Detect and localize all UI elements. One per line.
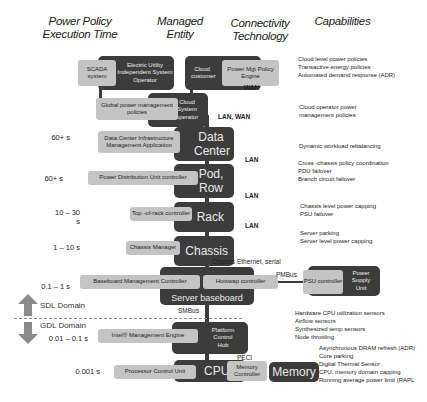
pod-row-label: Pod, Row bbox=[198, 167, 224, 195]
cap-item: Automated demand response (ADR) bbox=[298, 71, 395, 79]
sdl-domain-label: SDL Domain bbox=[40, 301, 85, 310]
cap-chassis: Server parking Server level power cappin… bbox=[300, 229, 372, 245]
pch-label: Platform Control Hub bbox=[208, 327, 238, 350]
time-cpu: 0.001 s bbox=[68, 367, 100, 376]
cap-item: Cloud operator power bbox=[299, 103, 357, 111]
header-entity-line1: Managed bbox=[155, 15, 205, 28]
cap-operator: Cloud operator power management policies bbox=[299, 103, 357, 119]
hotswap-controller: Hotswap controller bbox=[203, 275, 278, 289]
cap-item: PDU failover bbox=[298, 167, 389, 175]
gdl-domain-label: GDL Domain bbox=[40, 321, 86, 330]
cap-item: Server parking bbox=[300, 229, 372, 237]
cap-item: PSU failover bbox=[300, 210, 376, 218]
processor-control-unit: Processor Control Unit bbox=[114, 365, 196, 379]
header-entity: Managed Entity bbox=[155, 15, 205, 41]
psu-controller: PSU controller bbox=[303, 270, 343, 294]
header-conn-line1: Connectivity bbox=[225, 17, 295, 30]
header-connectivity: Connectivity Technology bbox=[225, 17, 295, 43]
cap-cloud: Cloud level power policies Transactive e… bbox=[298, 55, 395, 79]
global-power-policies: Global power management policies bbox=[96, 98, 178, 120]
conn-smbus: SMBus bbox=[178, 307, 199, 314]
domain-divider bbox=[14, 318, 242, 319]
cloud-customer-label: Cloud customer bbox=[191, 66, 213, 81]
time-pod: 60+ s bbox=[33, 174, 63, 183]
cap-item: Running average power limit (RAPL bbox=[319, 376, 415, 384]
scada-system-front: SCADA system bbox=[78, 60, 116, 86]
datacenter-entity: Data Center bbox=[174, 127, 234, 161]
conn-lan-1: LAN bbox=[245, 156, 258, 163]
cap-item: Server level power capping bbox=[300, 237, 372, 245]
cap-item: Branch circuit failover bbox=[298, 175, 389, 183]
cap-item: Core parking bbox=[319, 352, 415, 360]
cap-item: Airflow sensors bbox=[295, 317, 385, 325]
psu-label: Power Supply Unit bbox=[348, 270, 374, 293]
cap-item: Cloud level power policies bbox=[298, 55, 395, 63]
conn-pmbus: PMBus bbox=[276, 271, 297, 278]
header-capabilities: Capabilities bbox=[305, 15, 380, 28]
bmc-controller: Baseboard Management Controller bbox=[80, 275, 200, 289]
datacenter-label: Data Center bbox=[194, 130, 228, 158]
cap-item: Node throttling bbox=[295, 333, 385, 341]
cap-item: Digital Thermal Sensor bbox=[319, 360, 415, 368]
conn-lan-wan: LAN, WAN bbox=[218, 113, 250, 120]
dcim-application: Data Center Infrastructure Management Ap… bbox=[98, 131, 180, 153]
header-time-line2: Execution Time bbox=[40, 28, 120, 41]
header-conn-line2: Technology bbox=[225, 30, 295, 43]
cap-item: Hardware CPU utilization sensors bbox=[295, 309, 385, 317]
cap-item: Synthesized temp sensors bbox=[295, 325, 385, 333]
cap-server: Hardware CPU utilization sensors Airflow… bbox=[295, 309, 385, 341]
header-entity-line2: Entity bbox=[155, 28, 205, 41]
cap-item: management policies bbox=[299, 111, 357, 119]
cap-cpu: Asynchronous DRAM refresh (ADR) Core par… bbox=[319, 344, 415, 384]
chassis-manager: Chassis Manager bbox=[126, 241, 180, 255]
cap-pod: Cross -chassis policy coordination PDU f… bbox=[298, 159, 389, 183]
memory-controller: Memory Controller bbox=[227, 361, 267, 381]
conn-wan: WAN bbox=[244, 84, 259, 91]
time-server: 0.1 – 1 s bbox=[35, 282, 70, 291]
memory-entity: Memory bbox=[269, 362, 319, 382]
conn-lan-2: LAN bbox=[245, 192, 258, 199]
pdu-controller: Power Distribution Unit controller bbox=[88, 171, 198, 185]
cap-item: Transactive energy policies bbox=[298, 63, 395, 71]
arrow-up-icon bbox=[18, 294, 38, 316]
time-datacenter: 60+ s bbox=[40, 133, 70, 142]
cap-item: CPU, memory domain capping bbox=[319, 368, 415, 376]
cap-item: Cross -chassis policy coordination bbox=[298, 159, 389, 167]
cap-item: Asynchronous DRAM refresh (ADR) bbox=[319, 344, 415, 352]
time-chassis: 1 – 10 s bbox=[50, 243, 80, 252]
cap-item: Dynamic workload rebalancing bbox=[299, 142, 381, 150]
header-time: Power Policy Execution Time bbox=[40, 15, 120, 41]
server-baseboard-label: Server baseboard bbox=[160, 291, 254, 304]
time-rack: 10 – 30 s bbox=[50, 208, 80, 226]
header-time-line1: Power Policy bbox=[40, 15, 120, 28]
cap-rack: Chassis level power capping PSU failover bbox=[300, 202, 376, 218]
tor-controller: Top -of-rack controller bbox=[130, 207, 192, 221]
intel-management-engine: Intel® Management Engine bbox=[98, 329, 198, 343]
conn-chassis-ethernet: Chassis Ethernet, serial bbox=[212, 258, 281, 265]
cap-datacenter: Dynamic workload rebalancing bbox=[299, 142, 381, 150]
conn-lan-3: LAN bbox=[245, 222, 258, 229]
cap-item: Chassis level power capping bbox=[300, 202, 376, 210]
power-mgt-policy-engine: Power Mgt Policy Engine bbox=[222, 60, 279, 86]
time-pch: 0.01 – 0.1 s bbox=[48, 334, 88, 343]
arrow-down-icon bbox=[18, 322, 38, 344]
